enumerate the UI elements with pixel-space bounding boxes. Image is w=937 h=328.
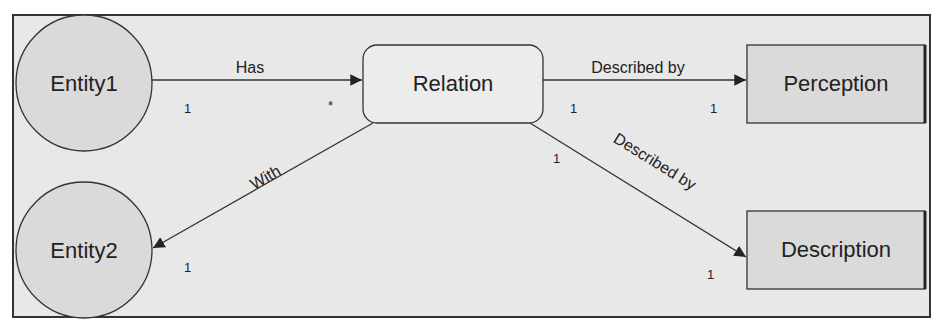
- node-perception: Perception: [747, 45, 925, 123]
- node-label-description: Description: [781, 237, 891, 262]
- node-label-relation: Relation: [413, 71, 494, 96]
- node-label-entity1: Entity1: [50, 71, 117, 96]
- node-label-entity2: Entity2: [50, 238, 117, 263]
- multiplicity-relation-perception: 1: [570, 101, 577, 116]
- multiplicity-perception: 1: [710, 101, 717, 116]
- node-relation: Relation: [363, 45, 543, 123]
- node-entity1: Entity1: [16, 15, 152, 151]
- node-entity2: Entity2: [16, 182, 152, 318]
- multiplicity-entity1-has: 1: [184, 101, 191, 116]
- er-diagram: Has 1 * Described by 1 1 With 1 Describe…: [0, 0, 937, 328]
- edge-label-described-by-perception: Described by: [591, 59, 684, 76]
- multiplicity-description: 1: [707, 267, 714, 282]
- node-description: Description: [747, 211, 925, 289]
- edge-label-has: Has: [236, 59, 264, 76]
- multiplicity-relation-has: *: [328, 98, 333, 113]
- node-label-perception: Perception: [783, 71, 888, 96]
- multiplicity-relation-description: 1: [553, 151, 560, 166]
- multiplicity-entity2: 1: [184, 260, 191, 275]
